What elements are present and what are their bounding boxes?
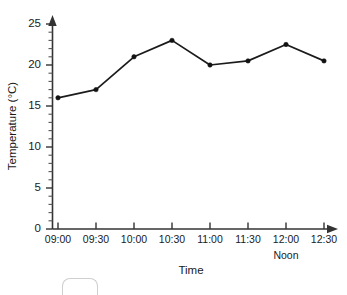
x-tick-label: 12:00: [273, 233, 299, 245]
x-tick-label: 09:00: [45, 233, 71, 245]
x-tick-label: 10:00: [121, 233, 147, 245]
y-tick-label: 5: [35, 181, 41, 193]
y-tick-label: 0: [35, 222, 41, 234]
data-point-marker: [246, 59, 250, 63]
x-tick-label: 12:30: [311, 233, 337, 245]
data-point-marker: [132, 55, 136, 59]
data-point-marker: [56, 96, 60, 100]
x-tick-label: 10:30: [159, 233, 185, 245]
y-tick-label: 10: [28, 140, 41, 152]
y-tick-label: 20: [28, 58, 41, 70]
y-axis-title: Temperature (°C): [6, 82, 18, 170]
data-point-marker: [170, 38, 174, 42]
x-tick-label: 11:00: [197, 233, 223, 245]
y-axis-tick-labels: 0 5 10 15 20 25: [28, 17, 41, 234]
x-axis-title: Time: [178, 264, 203, 276]
x-axis-arrow-icon: [327, 225, 338, 233]
noon-annotation-label: Noon: [273, 249, 298, 261]
x-tick-label: 11:30: [235, 233, 261, 245]
data-point-marker: [94, 87, 98, 91]
y-axis-major-ticks: [46, 24, 53, 229]
temperature-series: [56, 38, 326, 100]
data-point-marker: [322, 59, 326, 63]
x-tick-label: 09:30: [83, 233, 109, 245]
x-axis-ticks: [58, 223, 324, 230]
cropped-shape-artifact: [62, 278, 98, 295]
data-point-marker: [208, 63, 212, 67]
y-tick-label: 15: [28, 99, 41, 111]
y-tick-label: 25: [28, 17, 41, 29]
x-axis-tick-labels: 09:00 09:30 10:00 10:30 11:00 11:30 12:0…: [45, 233, 337, 245]
data-point-marker: [284, 42, 288, 46]
